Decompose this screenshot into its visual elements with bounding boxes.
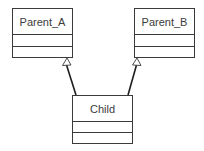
- attributes-compartment: [73, 122, 132, 133]
- class-name: Child: [73, 96, 132, 122]
- class-name: Parent_B: [135, 9, 194, 35]
- hollow-triangle-arrowhead-icon: [63, 58, 72, 66]
- attributes-compartment: [135, 35, 194, 47]
- class-child[interactable]: Child: [72, 95, 133, 144]
- uml-class-diagram: Parent_A Parent_B Child: [0, 0, 204, 151]
- generalization-child-to-parent-b: [128, 58, 141, 95]
- class-name: Parent_A: [13, 9, 72, 35]
- operations-compartment: [135, 47, 194, 57]
- attributes-compartment: [13, 35, 72, 47]
- class-parent-b[interactable]: Parent_B: [134, 8, 195, 58]
- class-parent-a[interactable]: Parent_A: [12, 8, 73, 58]
- hollow-triangle-arrowhead-icon: [133, 58, 142, 66]
- operations-compartment: [73, 133, 132, 143]
- generalization-child-to-parent-a: [63, 58, 77, 95]
- operations-compartment: [13, 47, 72, 57]
